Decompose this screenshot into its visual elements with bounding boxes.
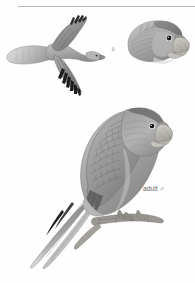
perched-head	[121, 108, 172, 157]
header-divider	[18, 6, 195, 7]
illustration-plate: ♀ adult ♂	[0, 0, 195, 283]
flight-upper-wing	[52, 15, 87, 51]
figure-female-head	[118, 14, 192, 72]
perched-branch	[74, 214, 163, 249]
adult-male-label: adult ♂	[143, 186, 164, 193]
figure-perched-adult-male	[28, 86, 173, 271]
female-symbol-label: ♀	[110, 46, 116, 54]
